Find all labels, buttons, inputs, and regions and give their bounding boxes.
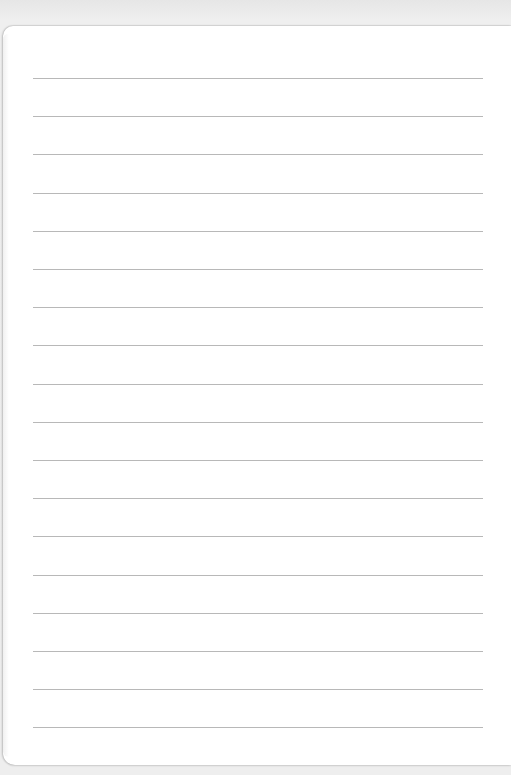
ruled-line <box>33 536 483 537</box>
ruled-line <box>33 498 483 499</box>
ruled-line <box>33 727 483 728</box>
ruled-line <box>33 651 483 652</box>
ruled-line <box>33 154 483 155</box>
ruled-line <box>33 422 483 423</box>
ruled-line <box>33 307 483 308</box>
ruled-line <box>33 460 483 461</box>
ruled-line <box>33 575 483 576</box>
ruled-line <box>33 269 483 270</box>
lined-paper <box>3 26 511 765</box>
ruled-line <box>33 613 483 614</box>
page-edge-shadow <box>3 34 9 757</box>
ruled-line <box>33 231 483 232</box>
ruled-line <box>33 116 483 117</box>
ruled-line <box>33 193 483 194</box>
ruled-line <box>33 689 483 690</box>
ruled-line <box>33 345 483 346</box>
ruled-line <box>33 384 483 385</box>
ruled-line <box>33 78 483 79</box>
